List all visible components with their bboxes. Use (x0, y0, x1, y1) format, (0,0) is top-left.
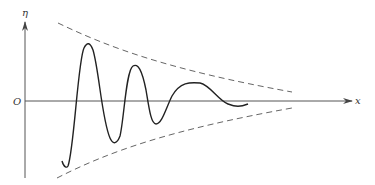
origin-label: O (13, 96, 21, 107)
lower-envelope (57, 108, 292, 178)
damped-oscillation-diagram: η x O (0, 0, 375, 185)
x-axis-label: x (355, 95, 361, 106)
y-axis-label: η (22, 7, 28, 18)
upper-envelope (58, 23, 292, 92)
damped-wave-curve (62, 44, 248, 167)
